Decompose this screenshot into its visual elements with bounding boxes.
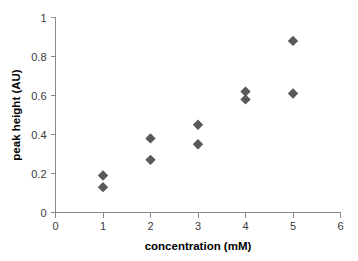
data-point-marker [193,139,203,149]
data-point-marker [98,182,108,192]
y-tick-label: 0.2 [31,168,46,180]
y-tick-label: 1 [40,12,46,24]
y-tick-label: 0.8 [31,51,46,63]
x-tick-label: 5 [290,220,296,232]
y-tick-label: 0 [40,207,46,219]
data-point-marker [193,120,203,130]
plot-area: 00.20.40.60.810123456concentration (mM)p… [0,0,358,261]
x-tick-label: 3 [195,220,201,232]
x-tick-label: 0 [52,220,58,232]
y-tick-label: 0.6 [31,90,46,102]
data-point-marker [240,94,250,104]
data-point-marker [288,36,298,46]
x-tick-label: 2 [147,220,153,232]
x-tick-label: 6 [337,220,343,232]
data-point-marker [145,133,155,143]
y-tick-label: 0.4 [31,129,46,141]
data-point-marker [145,155,155,165]
y-axis-title: peak height (AU) [10,69,22,161]
x-axis-title: concentration (mM) [145,240,252,252]
scatter-chart: 00.20.40.60.810123456concentration (mM)p… [0,0,358,261]
data-point-marker [98,170,108,180]
data-point-marker [288,88,298,98]
x-tick-label: 4 [242,220,248,232]
x-tick-label: 1 [100,220,106,232]
